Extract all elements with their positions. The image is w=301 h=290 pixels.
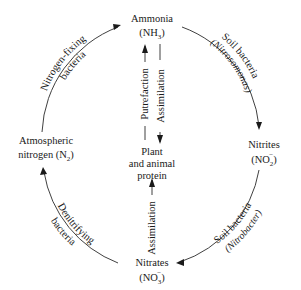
nitrates-formula: (NO3−) (139, 269, 165, 286)
arc-nitrates-to-atmospheric (44, 172, 118, 263)
protein-line3: protein (137, 170, 167, 181)
node-protein: Plant and animal protein (129, 146, 175, 181)
edge-nitrosomonas: Soil bacteria (Nitrosomonas) (208, 31, 261, 95)
arrowhead-atmospheric-in (40, 167, 47, 175)
nitrites-formula: (NO2−) (251, 151, 277, 168)
protein-line2: and animal (129, 158, 175, 169)
ammonia-label: Ammonia (131, 13, 173, 24)
assimilation-bottom-label: Assimilation (146, 200, 157, 254)
node-ammonia: Ammonia (NH3) (131, 13, 173, 41)
arrowhead-nitrites-in (256, 122, 262, 130)
arrowhead-ammonia-in (113, 24, 121, 30)
protein-line1: Plant (141, 146, 163, 157)
nitrogen-cycle-diagram: Ammonia (NH3) Nitrites (NO2−) Nitrates (… (0, 0, 301, 290)
putrefaction-label: Putrefaction (139, 68, 150, 120)
ammonia-formula: (NH3) (139, 27, 165, 41)
nitrites-label: Nitrites (248, 139, 280, 150)
arrowhead-nitrates-in (176, 259, 184, 266)
atmospheric-formula: nitrogen (N2) (18, 149, 74, 163)
nitrates-label: Nitrates (135, 257, 168, 268)
assimilation-top-label: Assimilation (155, 68, 166, 122)
arrowhead-assimilation-top-down (157, 135, 163, 144)
node-nitrates: Nitrates (NO3−) (135, 257, 168, 286)
edge-nitrobacter: Soil bacteria (Nitrobacter) (212, 200, 265, 255)
atmospheric-label: Atmospheric (19, 135, 74, 146)
node-nitrites: Nitrites (NO2−) (248, 139, 280, 168)
arrowhead-putrefaction-up (142, 44, 148, 53)
node-atmospheric-nitrogen: Atmospheric nitrogen (N2) (18, 135, 74, 163)
diagram-canvas: Ammonia (NH3) Nitrites (NO2−) Nitrates (… (0, 0, 301, 290)
edge-nitrogen-fixing: Nitrogen-fixing bacteria (38, 32, 88, 92)
